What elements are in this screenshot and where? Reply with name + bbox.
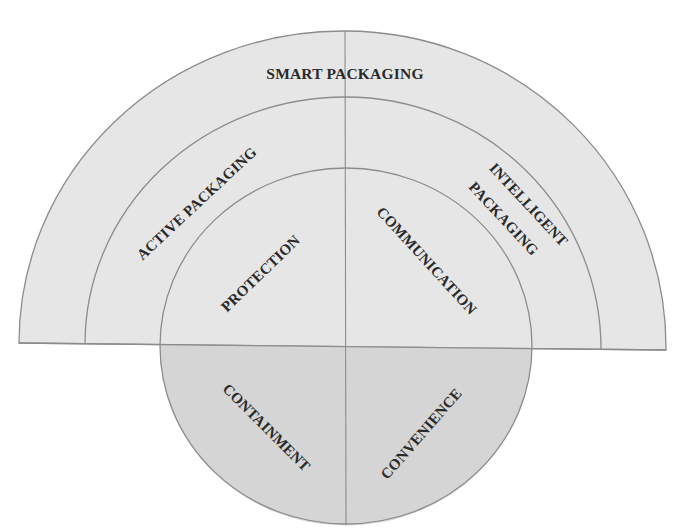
label-smart-packaging: SMART PACKAGING — [266, 65, 423, 82]
smart-packaging-diagram: SMART PACKAGING ACTIVE PACKAGING INTELLI… — [0, 0, 675, 532]
